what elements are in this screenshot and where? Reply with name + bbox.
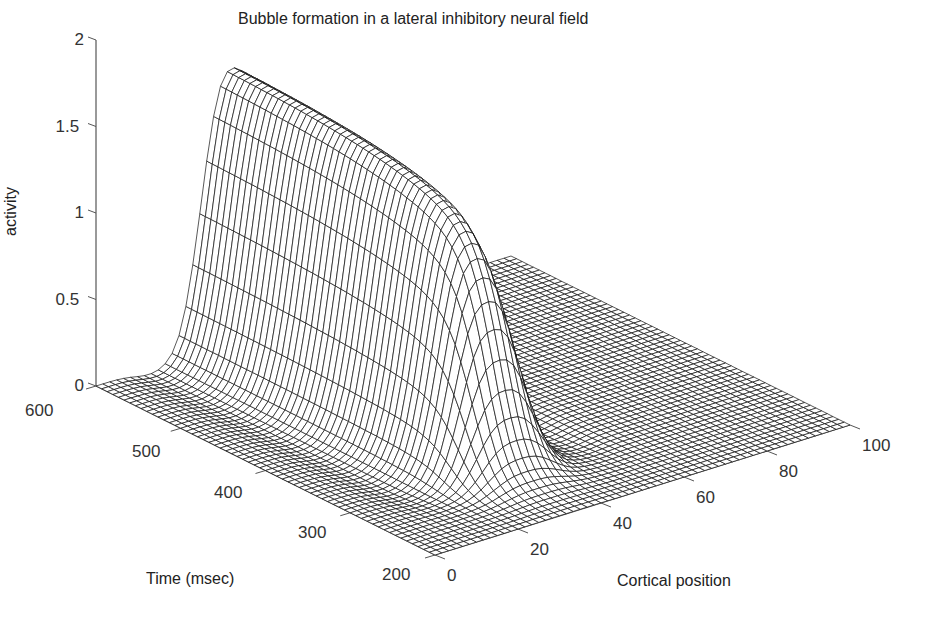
z-tick-label: 1.5	[56, 118, 80, 135]
z-tick-label: 2	[75, 31, 84, 48]
time-tick-label: 400	[214, 484, 242, 501]
surface-plot	[0, 0, 936, 622]
z-tick-label: 0.5	[56, 291, 80, 308]
z-axis-label: activity	[2, 187, 20, 236]
z-tick-label: 0	[75, 377, 84, 394]
time-axis-label: Time (msec)	[146, 570, 234, 588]
z-tick-label: 1	[75, 204, 84, 221]
cortical-tick-label: 100	[862, 437, 890, 454]
cortical-axis-label: Cortical position	[617, 572, 731, 590]
chart-title: Bubble formation in a lateral inhibitory…	[238, 10, 588, 28]
time-tick-label: 300	[298, 524, 326, 541]
cortical-tick-label: 40	[613, 515, 632, 532]
cortical-tick-label: 80	[779, 463, 798, 480]
time-tick-label: 600	[25, 402, 53, 419]
surface-mesh	[96, 68, 850, 555]
cortical-tick-label: 0	[447, 567, 456, 584]
cortical-tick-label: 20	[530, 541, 549, 558]
time-tick-label: 500	[132, 443, 160, 460]
time-tick-label: 200	[382, 566, 410, 583]
cortical-tick-label: 60	[696, 489, 715, 506]
